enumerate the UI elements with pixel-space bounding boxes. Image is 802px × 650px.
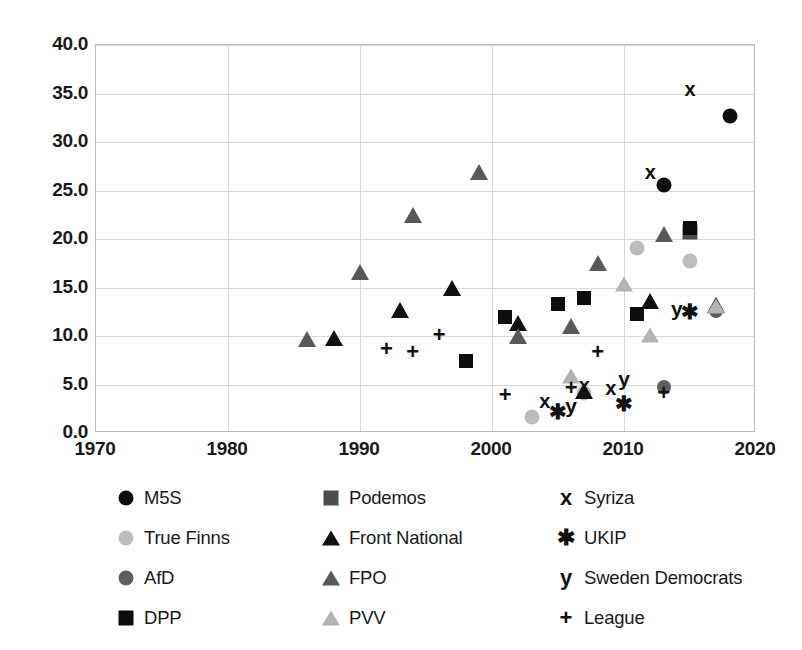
x-axis-tick-label: 2000 — [446, 438, 536, 460]
y-axis-tick-label: 25.0 — [8, 179, 88, 201]
y-axis-tick-label: 40.0 — [8, 33, 88, 55]
circle-marker-icon — [112, 488, 140, 508]
x-marker-icon: x — [552, 488, 580, 508]
scatter-chart: 0.05.010.015.020.025.030.035.040.0 xxxxx… — [0, 0, 802, 650]
data-point — [351, 264, 369, 280]
gridline-horizontal — [96, 142, 754, 143]
data-point: y — [618, 367, 630, 388]
legend-item[interactable]: xSyriza — [552, 478, 772, 518]
data-point — [459, 354, 473, 368]
data-point: + — [380, 338, 393, 360]
y-axis-tick-label: 20.0 — [8, 227, 88, 249]
triangle-marker-icon — [317, 568, 345, 588]
x-axis-tick-label: 1980 — [182, 438, 272, 460]
square-marker-icon — [317, 488, 345, 508]
legend-item[interactable]: +League — [552, 598, 772, 638]
chart-legend: M5SPodemosxSyrizaTrue FinnsFront Nationa… — [112, 478, 772, 638]
asterisk-marker-icon: ✱ — [552, 528, 580, 548]
data-point — [443, 280, 461, 296]
data-point — [577, 291, 591, 305]
data-point — [630, 307, 644, 321]
legend-item[interactable]: ✱UKIP — [552, 518, 772, 558]
legend-item[interactable]: AfD — [112, 558, 317, 598]
data-point — [683, 221, 697, 235]
circle-marker-icon — [112, 568, 140, 588]
legend-item[interactable]: True Finns — [112, 518, 317, 558]
legend-item[interactable]: PVV — [317, 598, 552, 638]
legend-item[interactable]: M5S — [112, 478, 317, 518]
legend-item-label: FPO — [349, 567, 386, 589]
y-axis-tick-labels: 0.05.010.015.020.025.030.035.040.0 — [0, 44, 88, 432]
y-axis-tick-label: 30.0 — [8, 130, 88, 152]
data-point: + — [657, 382, 670, 404]
gridline-horizontal — [96, 385, 754, 386]
legend-item-label: PVV — [349, 607, 385, 629]
gridline-horizontal — [96, 288, 754, 289]
legend-item-label: League — [584, 607, 645, 629]
legend-item-label: True Finns — [144, 527, 230, 549]
legend-item[interactable]: Front National — [317, 518, 552, 558]
data-point — [575, 383, 593, 399]
data-point: x — [645, 162, 656, 182]
gridline-horizontal — [96, 191, 754, 192]
data-point: ✱ — [549, 400, 567, 421]
x-axis-tick-label: 2020 — [710, 438, 800, 460]
data-point — [641, 328, 659, 343]
data-point: + — [433, 324, 446, 346]
legend-item-label: Sweden Democrats — [584, 567, 742, 589]
gridline-vertical — [228, 45, 229, 431]
legend-item-label: Front National — [349, 527, 462, 549]
data-point: + — [499, 384, 512, 406]
data-point: x — [684, 79, 695, 99]
x-axis-tick-label: 2010 — [578, 438, 668, 460]
data-point — [470, 164, 488, 180]
y-axis-tick-label: 35.0 — [8, 82, 88, 104]
data-point — [722, 108, 737, 123]
data-point — [656, 177, 671, 192]
data-point — [498, 310, 512, 324]
gridline-horizontal — [96, 45, 754, 46]
data-point: + — [565, 377, 578, 399]
triangle-marker-icon — [317, 608, 345, 628]
data-point — [509, 328, 527, 344]
legend-item-label: Podemos — [349, 487, 426, 509]
data-point — [325, 330, 343, 346]
y-axis-tick-label: 10.0 — [8, 324, 88, 346]
y-axis-tick-label: 15.0 — [8, 276, 88, 298]
gridline-vertical — [360, 45, 361, 431]
data-point — [562, 318, 580, 334]
legend-item-label: AfD — [144, 567, 174, 589]
legend-item[interactable]: FPO — [317, 558, 552, 598]
triangle-marker-icon — [317, 528, 345, 548]
x-axis-tick-label: 1970 — [50, 438, 140, 460]
x-axis-tick-labels: 197019801990200020102020 — [95, 438, 755, 468]
plot-area: xxxxx✱✱✱yyy+++++++ — [95, 44, 755, 432]
data-point — [391, 302, 409, 318]
data-point: ✱ — [681, 300, 699, 321]
data-point — [655, 226, 673, 242]
data-point — [404, 207, 422, 223]
data-point: + — [406, 341, 419, 363]
x-axis-tick-label: 1990 — [314, 438, 404, 460]
data-point: + — [591, 341, 604, 363]
gridline-vertical — [492, 45, 493, 431]
data-point: y — [671, 297, 683, 318]
plus-marker-icon: + — [552, 608, 580, 628]
legend-item[interactable]: DPP — [112, 598, 317, 638]
data-point — [589, 255, 607, 271]
circle-marker-icon — [112, 528, 140, 548]
legend-item-label: M5S — [144, 487, 181, 509]
data-point — [615, 276, 633, 291]
y-axis-tick-label: 5.0 — [8, 373, 88, 395]
data-point — [683, 254, 698, 269]
data-point — [524, 410, 539, 425]
legend-item[interactable]: ySweden Democrats — [552, 558, 772, 598]
data-point: ✱ — [615, 392, 633, 413]
data-point — [298, 331, 316, 347]
y-marker-icon: y — [552, 568, 580, 588]
data-point — [551, 297, 565, 311]
legend-item-label: Syriza — [584, 487, 634, 509]
data-point — [707, 298, 725, 313]
gridline-horizontal — [96, 94, 754, 95]
legend-item[interactable]: Podemos — [317, 478, 552, 518]
